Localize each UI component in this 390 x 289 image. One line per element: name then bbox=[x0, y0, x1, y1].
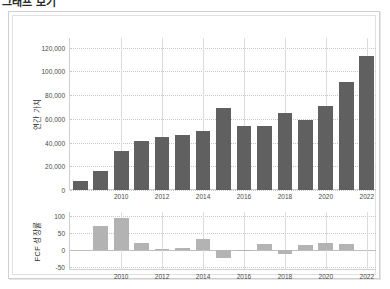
gridline-vertical bbox=[326, 212, 327, 269]
bar-annual-value bbox=[93, 171, 108, 190]
y-axis-tick-annual-value: 20,000 bbox=[45, 163, 65, 170]
y-axis-label-fcf-growth: FCF 성장률 bbox=[31, 221, 42, 261]
chart-panel-fcf-growth: -500501002010201220142016201820202022 FC… bbox=[69, 212, 376, 270]
y-axis-label-annual-value: 연간 가치 bbox=[31, 98, 42, 130]
y-axis-tick-annual-value: 120,000 bbox=[42, 44, 66, 51]
x-axis-tick-year: 2018 bbox=[278, 193, 292, 200]
bar-annual-value bbox=[278, 113, 293, 190]
gridline-vertical bbox=[285, 212, 286, 269]
gridline-horizontal bbox=[70, 95, 376, 96]
page-title: 그래프 보기 bbox=[2, 0, 56, 9]
y-axis-tick-annual-value: 60,000 bbox=[45, 115, 65, 122]
gridline-horizontal bbox=[70, 216, 376, 217]
x-axis-tick-year: 2018 bbox=[278, 273, 292, 280]
gridline-horizontal bbox=[70, 190, 376, 191]
x-axis-tick-year: 2014 bbox=[196, 273, 210, 280]
bar-annual-value bbox=[196, 131, 211, 190]
plot-area-fcf-growth: -500501002010201220142016201820202022 bbox=[69, 212, 376, 270]
bar-annual-value bbox=[359, 56, 374, 190]
plot-area-annual-value: 020,00040,00060,00080,000100,000120,0002… bbox=[69, 38, 376, 190]
bar-annual-value bbox=[114, 151, 129, 190]
gridline-horizontal bbox=[70, 71, 376, 72]
bar-fcf-growth bbox=[93, 226, 108, 251]
figure-frame: 020,00040,00060,00080,000100,000120,0002… bbox=[8, 11, 380, 279]
bar-annual-value bbox=[73, 181, 88, 191]
y-axis-tick-annual-value: 100,000 bbox=[42, 68, 66, 75]
gridline-vertical bbox=[367, 212, 368, 269]
gridline-horizontal bbox=[70, 267, 376, 268]
x-axis-tick-year: 2016 bbox=[237, 273, 251, 280]
y-axis-tick-fcf-growth: 100 bbox=[54, 213, 65, 220]
bar-annual-value bbox=[339, 82, 354, 190]
x-axis-tick-year: 2022 bbox=[360, 193, 374, 200]
x-axis-tick-year: 2012 bbox=[155, 273, 169, 280]
bar-annual-value bbox=[216, 108, 231, 190]
y-axis-tick-annual-value: 40,000 bbox=[45, 139, 65, 146]
bar-annual-value bbox=[175, 135, 190, 190]
bar-fcf-growth bbox=[318, 243, 333, 251]
bar-fcf-growth bbox=[216, 250, 231, 258]
gridline-horizontal bbox=[70, 48, 376, 49]
figure-inner-border: 020,00040,00060,00080,000100,000120,0002… bbox=[12, 15, 376, 275]
bar-fcf-growth bbox=[339, 244, 354, 250]
bar-fcf-growth bbox=[278, 250, 293, 254]
gridline-vertical bbox=[162, 212, 163, 269]
x-axis-tick-year: 2020 bbox=[319, 273, 333, 280]
x-axis-tick-year: 2022 bbox=[360, 273, 374, 280]
bar-fcf-growth bbox=[196, 239, 211, 250]
y-axis-tick-annual-value: 80,000 bbox=[45, 92, 65, 99]
chart-panel-annual-value: 020,00040,00060,00080,000100,000120,0002… bbox=[69, 38, 376, 190]
x-axis-tick-year: 2020 bbox=[319, 193, 333, 200]
bar-annual-value bbox=[134, 141, 149, 190]
bar-fcf-growth bbox=[298, 245, 313, 250]
x-axis-tick-year: 2016 bbox=[237, 193, 251, 200]
x-axis-tick-year: 2010 bbox=[114, 193, 128, 200]
bar-fcf-growth bbox=[257, 244, 272, 250]
bar-annual-value bbox=[298, 120, 313, 190]
bar-fcf-growth bbox=[175, 248, 190, 250]
bar-annual-value bbox=[318, 106, 333, 190]
y-axis-tick-fcf-growth: -50 bbox=[56, 264, 65, 271]
x-axis-tick-year: 2014 bbox=[196, 193, 210, 200]
bar-fcf-growth bbox=[155, 249, 170, 250]
x-axis-tick-year: 2012 bbox=[155, 193, 169, 200]
bar-annual-value bbox=[237, 126, 252, 190]
bar-annual-value bbox=[257, 126, 272, 190]
y-axis-tick-fcf-growth: 50 bbox=[58, 230, 65, 237]
bar-annual-value bbox=[155, 137, 170, 190]
y-axis-tick-fcf-growth: 0 bbox=[61, 247, 65, 254]
bar-fcf-growth bbox=[237, 250, 252, 251]
bar-fcf-growth bbox=[114, 218, 129, 250]
gridline-vertical bbox=[244, 212, 245, 269]
bar-fcf-growth bbox=[134, 243, 149, 251]
y-axis-tick-annual-value: 0 bbox=[61, 187, 65, 194]
x-axis-tick-year: 2010 bbox=[114, 273, 128, 280]
